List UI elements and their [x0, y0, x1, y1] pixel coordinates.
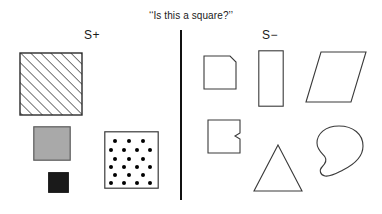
- gray-square: [33, 126, 71, 161]
- hatched-square: [19, 52, 83, 116]
- tall-rectangle: [258, 50, 284, 107]
- stimulus-figure: ‘‘Is this a square?’’ S+ S−: [0, 0, 382, 214]
- triangle: [253, 144, 303, 192]
- figure-title: ‘‘Is this a square?’’: [0, 10, 382, 21]
- blob: [315, 124, 365, 178]
- beveled-corner-square: [203, 55, 237, 90]
- parallelogram: [305, 51, 367, 103]
- black-square: [48, 172, 69, 193]
- category-label-positive: S+: [84, 28, 100, 42]
- vertical-divider: [180, 30, 182, 200]
- notched-square: [207, 119, 241, 154]
- category-label-negative: S−: [262, 28, 278, 42]
- dotted-square: [104, 131, 159, 189]
